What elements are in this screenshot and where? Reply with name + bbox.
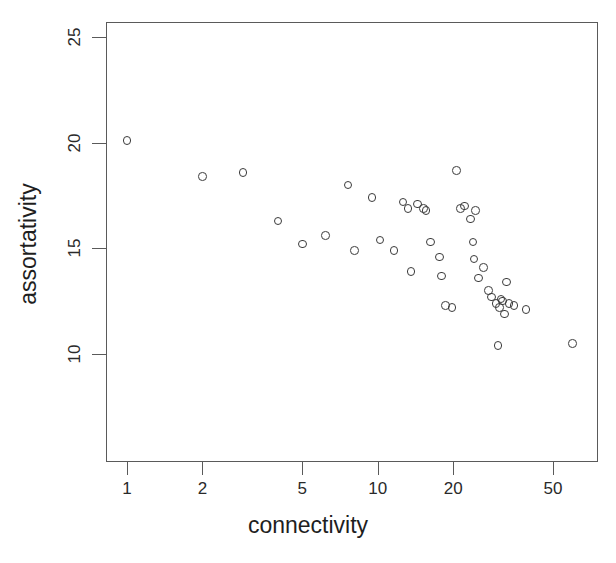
y-axis-tick-label: 20 xyxy=(65,133,85,152)
y-axis-tick-label-container: 10 xyxy=(62,341,88,367)
x-axis-tick-mark xyxy=(453,462,454,475)
x-axis-tick-label: 20 xyxy=(423,479,483,499)
x-axis-tick-mark xyxy=(302,462,303,475)
y-axis-tick-mark xyxy=(92,248,106,249)
x-axis-tick-label: 10 xyxy=(348,479,408,499)
y-axis-title-container: assortativity xyxy=(8,0,48,563)
x-axis-tick-mark xyxy=(378,462,379,475)
y-axis-tick-mark xyxy=(92,143,106,144)
x-axis-tick-label: 5 xyxy=(272,479,332,499)
y-axis-tick-label-container: 20 xyxy=(62,130,88,156)
y-axis-tick-label-container: 25 xyxy=(62,24,88,50)
y-axis-title: assortativity xyxy=(15,183,42,304)
x-axis-tick-label: 2 xyxy=(172,479,232,499)
y-axis-tick-mark xyxy=(92,37,106,38)
plot-area xyxy=(106,22,598,462)
x-axis-tick-label: 1 xyxy=(97,479,157,499)
y-axis-tick-mark xyxy=(92,354,106,355)
x-axis-tick-mark xyxy=(127,462,128,475)
y-axis-tick-label-container: 15 xyxy=(62,235,88,261)
scatter-plot-figure: assortativity connectivity 1015202512510… xyxy=(0,0,616,563)
x-axis-tick-mark xyxy=(553,462,554,475)
y-axis-tick-label: 15 xyxy=(65,239,85,258)
x-axis-tick-mark xyxy=(202,462,203,475)
x-axis-tick-label: 50 xyxy=(523,479,583,499)
y-axis-tick-label: 10 xyxy=(65,345,85,364)
x-axis-title: connectivity xyxy=(0,512,616,539)
y-axis-tick-label: 25 xyxy=(65,28,85,47)
